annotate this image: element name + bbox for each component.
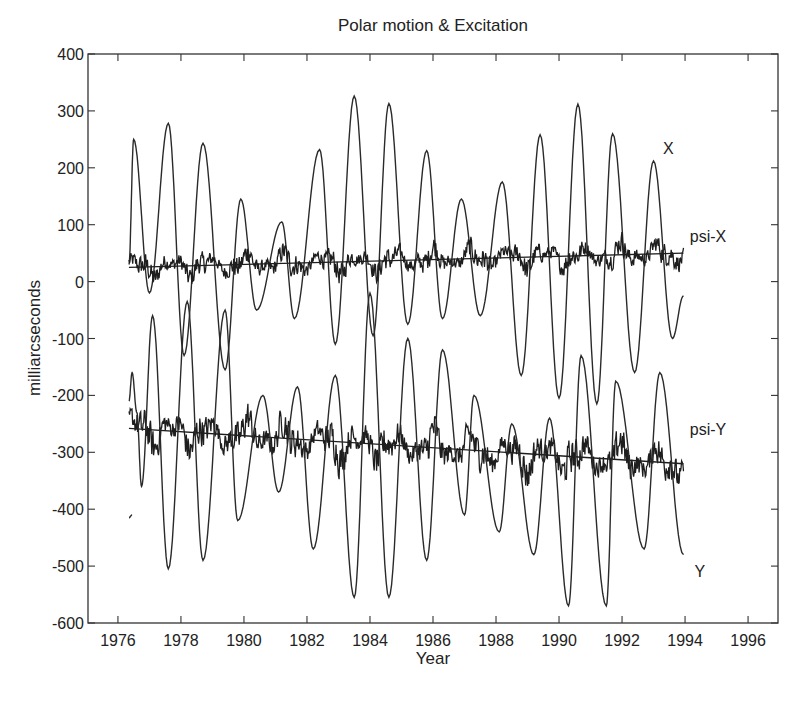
y-tick-label: 0 [75,274,84,291]
y-tick-label: -400 [52,501,84,518]
x-tick-label: 1984 [352,632,388,649]
series-labels: Xpsi-Xpsi-YY [663,140,727,581]
x-tick-label: 1976 [100,632,136,649]
chart-title: Polar motion & Excitation [338,16,528,35]
x-tick-label: 1978 [163,632,199,649]
series-label: psi-X [690,228,727,245]
y-tick-label: -200 [52,387,84,404]
y-tick-label: -300 [52,444,84,461]
y-tick-label: 100 [57,217,84,234]
y-tick-label: 200 [57,160,84,177]
polar-motion-chart: Polar motion & Excitation 19761978198019… [0,0,809,701]
y-tick-label: -100 [52,331,84,348]
series-psi-x [129,232,684,284]
x-tick-label: 1982 [289,632,325,649]
y-axis-label: milliarcseconds [25,280,44,396]
x-tick-label: 1986 [415,632,451,649]
x-tick-label: 1980 [226,632,262,649]
y-tick-label: 300 [57,103,84,120]
series-y-start-branch [129,515,132,518]
axis-ticks: 1976197819801982198419861988199019921994… [52,46,778,649]
y-tick-label: -500 [52,558,84,575]
x-axis-label: Year [416,649,451,668]
x-tick-label: 1992 [604,632,640,649]
x-tick-label: 1994 [667,632,703,649]
series-x [129,96,684,404]
series-label: Y [695,563,706,580]
series-label: psi-Y [690,421,727,438]
series-layer [129,96,684,606]
series-label: X [663,140,674,157]
x-tick-label: 1996 [730,632,766,649]
x-tick-label: 1988 [478,632,514,649]
y-tick-label: -600 [52,615,84,632]
y-tick-label: 400 [57,46,84,63]
x-tick-label: 1990 [541,632,577,649]
